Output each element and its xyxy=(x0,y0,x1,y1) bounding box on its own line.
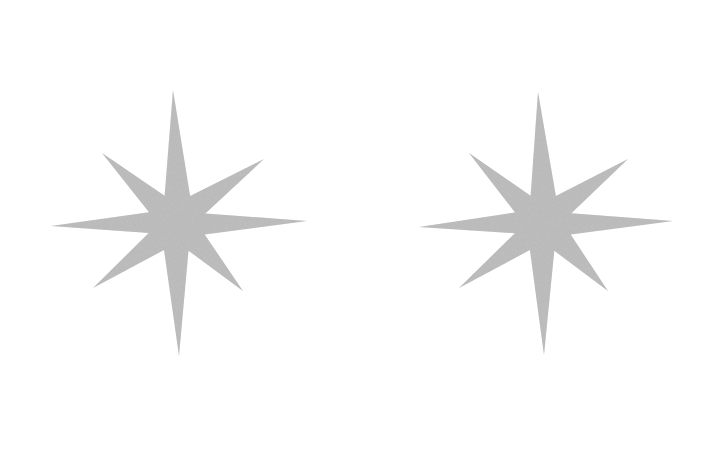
star-canvas xyxy=(0,0,724,454)
left-star xyxy=(51,90,307,356)
right-star xyxy=(419,92,673,355)
